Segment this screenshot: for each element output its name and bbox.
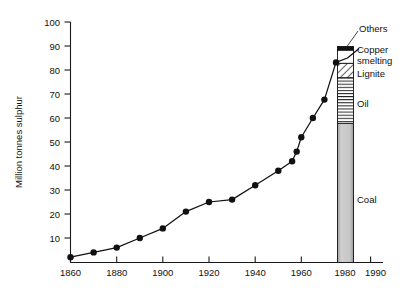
x-tick-label: 1940 <box>245 267 266 278</box>
bar-segment-oil <box>338 78 354 124</box>
x-tick-label: 1960 <box>291 267 312 278</box>
y-axis-ticks <box>65 22 71 238</box>
annotation-copper: Copper <box>357 44 388 55</box>
data-point <box>252 182 258 188</box>
series-markers <box>67 59 339 260</box>
data-point <box>321 96 327 102</box>
annotation-others: Others <box>359 23 388 34</box>
data-point <box>206 199 212 205</box>
x-axis-ticks <box>71 257 371 263</box>
x-axis-tick-labels: 1860 1880 1900 1920 1940 1960 1980 1990 <box>60 267 386 278</box>
y-tick-label: 10 <box>49 233 60 244</box>
bar-segment-coal <box>338 123 354 262</box>
annotation-oil: Oil <box>357 98 369 109</box>
data-point <box>294 148 300 154</box>
x-tick-label: 1980 <box>334 267 355 278</box>
y-tick-label: 90 <box>49 41 60 52</box>
y-axis: 100 90 80 70 60 50 40 30 20 10 Million t… <box>13 17 71 263</box>
data-point <box>275 168 281 174</box>
x-tick-label: 1990 <box>365 267 386 278</box>
data-point <box>67 254 73 260</box>
y-tick-label: 100 <box>44 17 60 28</box>
data-point <box>333 59 339 65</box>
annotation-smelting: smelting <box>357 55 392 66</box>
y-tick-label: 60 <box>49 113 60 124</box>
annotation-coal: Coal <box>357 194 377 205</box>
y-axis-tick-labels: 100 90 80 70 60 50 40 30 20 10 <box>44 17 60 244</box>
data-point <box>310 115 316 121</box>
y-tick-label: 70 <box>49 89 60 100</box>
y-tick-label: 30 <box>49 185 60 196</box>
y-axis-title: Million tonnes sulphur <box>13 96 24 188</box>
x-tick-label: 1920 <box>198 267 219 278</box>
data-point <box>229 196 235 202</box>
data-point <box>183 208 189 214</box>
data-series-sulphur <box>67 48 359 260</box>
data-point <box>298 134 304 140</box>
annotation-lignite: Lignite <box>357 68 385 79</box>
bar-segment-others <box>338 47 354 51</box>
data-point <box>90 249 96 255</box>
sulphur-emissions-chart: 100 90 80 70 60 50 40 30 20 10 Million t… <box>0 0 418 294</box>
y-tick-label: 40 <box>49 161 60 172</box>
data-point <box>137 235 143 241</box>
y-tick-label: 80 <box>49 65 60 76</box>
x-tick-label: 1900 <box>152 267 173 278</box>
data-point <box>114 244 120 250</box>
bar-segment-lignite <box>338 63 354 77</box>
series-line <box>71 48 360 257</box>
y-tick-label: 20 <box>49 209 60 220</box>
x-tick-label: 1860 <box>60 267 81 278</box>
y-tick-label: 50 <box>49 137 60 148</box>
data-point <box>160 225 166 231</box>
x-tick-label: 1880 <box>106 267 127 278</box>
stacked-bar-1985 <box>338 47 354 263</box>
data-point <box>289 158 295 164</box>
